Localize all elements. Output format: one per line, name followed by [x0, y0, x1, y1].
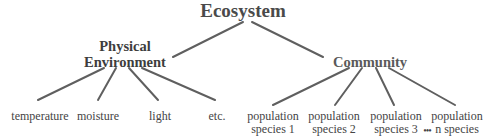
node-community: Community — [320, 54, 420, 70]
node-physical-line2: Environment — [75, 54, 175, 70]
leaf-line-species: species 2 — [306, 123, 362, 136]
edge-root-physical — [173, 22, 243, 57]
edge-physical-temperature — [38, 68, 104, 100]
edge-community-species3 — [376, 68, 394, 105]
leaf-population-species-n: population n species — [429, 110, 485, 136]
leaf-population-species-2: population species 2 — [306, 110, 362, 136]
leaf-etc: etc. — [200, 110, 234, 123]
leaf-line-species: n species — [429, 123, 485, 136]
node-physical-environment: Physical Environment — [75, 38, 175, 70]
leaf-population-species-3: population species 3 — [368, 110, 424, 136]
edge-community-speciesn — [389, 68, 455, 105]
edge-root-community — [252, 22, 323, 57]
ecosystem-diagram: Ecosystem Physical Environment Community… — [0, 0, 487, 137]
leaf-moisture: moisture — [70, 110, 126, 123]
leaf-population-species-1: population species 1 — [245, 110, 301, 136]
edge-physical-moisture — [98, 68, 116, 100]
edge-community-species1 — [273, 68, 349, 105]
leaf-line-species: species 1 — [245, 123, 301, 136]
node-physical-line1: Physical — [75, 38, 175, 54]
leaf-temperature: temperature — [5, 110, 75, 123]
leaf-line-species: species 3 — [368, 123, 424, 136]
leaf-light: light — [140, 110, 180, 123]
root-node-ecosystem: Ecosystem — [193, 0, 293, 22]
